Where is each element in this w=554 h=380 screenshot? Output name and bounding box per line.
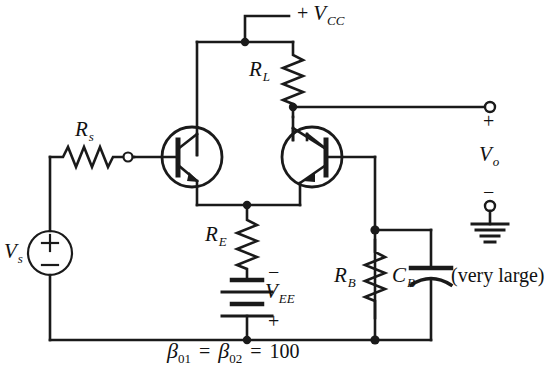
beta-value: 100: [270, 340, 300, 362]
vcc-sign: +: [297, 2, 308, 24]
output-rail-wire: [293, 107, 487, 140]
rl-subscript: L: [263, 69, 270, 84]
vo-symbol: V: [479, 142, 492, 166]
terminal-output-bottom: [485, 201, 495, 224]
vs-subscript: s: [18, 251, 23, 266]
rl-symbol: R: [249, 57, 262, 81]
vcc-subscript: CC: [327, 13, 344, 28]
label-rl: RL: [249, 59, 269, 80]
label-re: RE: [205, 224, 226, 245]
rs-subscript: s: [89, 129, 94, 144]
label-output-plus: +: [483, 111, 494, 131]
top-rail-wire: [197, 42, 293, 155]
resistor-re: [237, 205, 257, 280]
resistor-rs: [50, 147, 122, 167]
label-vs: Vs: [4, 241, 22, 262]
label-vo: Vo: [479, 144, 498, 165]
rs-symbol: R: [75, 117, 88, 141]
label-vcc: +VCC: [297, 3, 343, 24]
label-rb: RB: [334, 265, 355, 286]
junction-emitter: [243, 201, 251, 209]
junction-vcc: [241, 38, 249, 46]
label-vee-plus: +: [268, 311, 279, 331]
base-bias-wire: [375, 157, 431, 340]
label-vee: VEE: [265, 281, 294, 302]
beta2-symbol: β: [218, 338, 229, 363]
label-cb: CB: [392, 265, 414, 286]
transistor-q1-emitter-arrow: [187, 172, 199, 182]
circuit-diagram: +VCC RL Rs RE RB CB (very large) Vs Vo +…: [0, 0, 554, 380]
label-output-minus: −: [483, 182, 494, 202]
vs-symbol: V: [4, 239, 17, 263]
beta1-symbol: β: [167, 338, 178, 363]
vo-subscript: o: [493, 154, 500, 169]
label-vee-minus: −: [268, 262, 279, 282]
beta2-subscript: 02: [229, 351, 242, 366]
vee-subscript: EE: [279, 291, 295, 306]
input-branch-wire: [50, 157, 134, 340]
beta-equals-2: =: [250, 340, 261, 362]
transistor-q2: [282, 127, 375, 205]
cb-subscript: B: [407, 275, 415, 290]
junction-output: [289, 103, 297, 111]
beta-equals-1: =: [199, 340, 210, 362]
vcc-symbol: V: [313, 1, 326, 25]
junction-dots: [241, 38, 380, 345]
terminal-base-input: [124, 153, 133, 162]
transistor-q2-emitter-arrow: [303, 172, 315, 182]
re-subscript: E: [219, 234, 227, 249]
rb-symbol: R: [334, 263, 347, 287]
beta1-subscript: 01: [178, 351, 191, 366]
transistor-q1: [134, 127, 222, 205]
vcc-supply-wire: [245, 16, 289, 42]
cb-symbol: C: [392, 263, 406, 287]
ground-symbol: [472, 224, 508, 242]
re-symbol: R: [205, 222, 218, 246]
junction-base-bias: [370, 225, 379, 234]
source-vs-plus-glyph: [42, 235, 58, 251]
junction-rb-ground: [370, 335, 379, 344]
label-beta-equation: β01=β02=100: [167, 340, 300, 362]
rb-subscript: B: [348, 275, 356, 290]
label-rs: Rs: [75, 119, 93, 140]
label-capacitor-note: (very large): [451, 265, 544, 285]
